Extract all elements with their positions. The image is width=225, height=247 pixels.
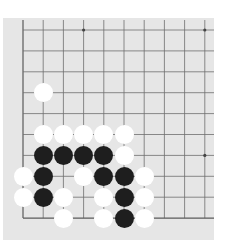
white-stone	[54, 125, 73, 144]
star-point-icon	[82, 28, 85, 31]
grid-lines	[23, 20, 214, 218]
black-stone	[54, 146, 73, 165]
white-stone	[94, 188, 113, 207]
black-stone	[94, 167, 113, 186]
white-stone	[34, 83, 53, 102]
black-stone	[74, 146, 93, 165]
white-stone	[34, 125, 53, 144]
white-stone	[14, 188, 33, 207]
black-stone	[34, 146, 53, 165]
white-stone	[115, 146, 134, 165]
white-stone	[115, 125, 134, 144]
black-stone	[115, 167, 134, 186]
star-point-icon	[203, 28, 206, 31]
black-stone	[34, 188, 53, 207]
star-point-icon	[203, 154, 206, 157]
white-stone	[135, 209, 154, 228]
white-stone	[94, 209, 113, 228]
white-stone	[74, 125, 93, 144]
white-stone	[135, 188, 154, 207]
white-stone	[54, 209, 73, 228]
black-stone	[34, 167, 53, 186]
white-stone	[74, 167, 93, 186]
black-stone	[115, 188, 134, 207]
board-grid	[0, 0, 225, 247]
white-stone	[54, 188, 73, 207]
white-stone	[14, 167, 33, 186]
white-stone	[135, 167, 154, 186]
black-stone	[115, 209, 134, 228]
